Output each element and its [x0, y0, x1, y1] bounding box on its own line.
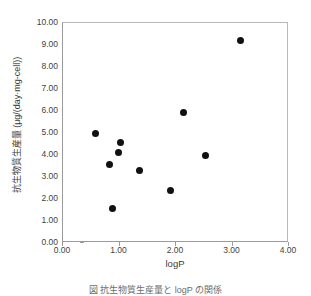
x-axis-tick-label: 2.00 [155, 246, 195, 255]
data-point [106, 161, 113, 168]
y-axis-title: 抗生物質生産量 (μg/(day·mg-cell)) [12, 20, 22, 230]
x-axis-tick-label: 4.00 [268, 246, 308, 255]
data-point [115, 149, 122, 156]
plot-area [62, 22, 288, 242]
data-point [136, 167, 143, 174]
x-axis-tick-mark [62, 242, 63, 246]
figure-caption: 図 抗生物質生産量と logP の関係 [0, 285, 311, 296]
y-axis-tick-label: 8.00 [24, 62, 58, 71]
y-axis-tick-label: 4.00 [24, 150, 58, 159]
y-axis-tick-label: 9.00 [24, 40, 58, 49]
x-axis-tick-label: 1.00 [99, 246, 139, 255]
y-axis-tick-label: 6.00 [24, 106, 58, 115]
y-axis-tick-label: 2.00 [24, 194, 58, 203]
x-axis-tick-mark [175, 242, 176, 246]
y-axis-title-container: 抗生物質生産量 (μg/(day·mg-cell)) [0, 0, 22, 260]
y-axis-tick-mark [80, 242, 84, 243]
data-point [92, 130, 99, 137]
y-axis-tick-label: 10.00 [24, 18, 58, 27]
data-point [202, 152, 209, 159]
data-point [109, 205, 116, 212]
y-axis-tick-label: 7.00 [24, 84, 58, 93]
x-axis-tick-mark [232, 242, 233, 246]
x-axis-tick-mark [119, 242, 120, 246]
y-axis-tick-label: 5.00 [24, 128, 58, 137]
data-point [117, 139, 124, 146]
x-axis-tick-label: 3.00 [212, 246, 252, 255]
x-axis-title: logP [62, 258, 288, 269]
x-axis-tick-mark [288, 242, 289, 246]
y-axis-tick-label: 1.00 [24, 216, 58, 225]
y-axis-tick-label: 3.00 [24, 172, 58, 181]
data-point [167, 187, 174, 194]
data-point [237, 37, 244, 44]
data-point [180, 109, 187, 116]
x-axis-tick-label: 0.00 [42, 246, 82, 255]
